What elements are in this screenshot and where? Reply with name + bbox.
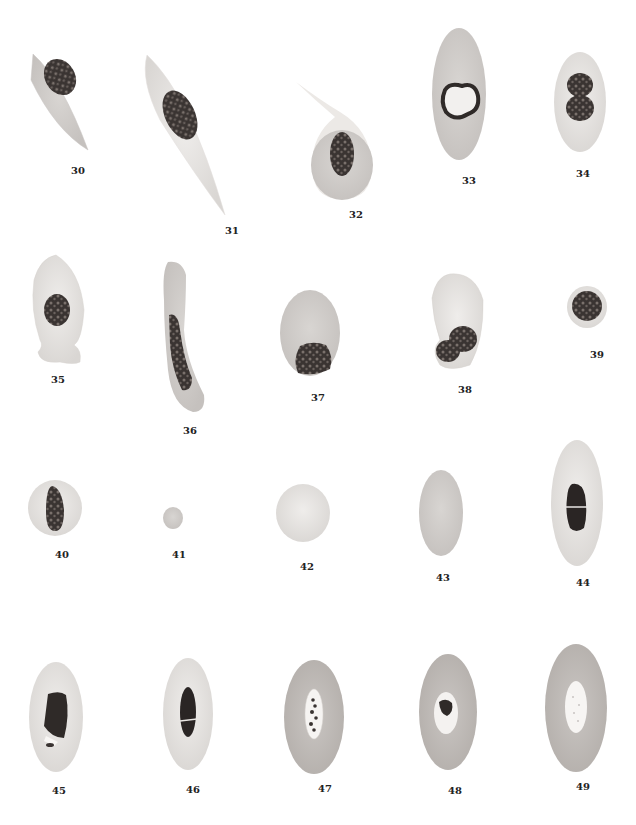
figure-36 [164,262,205,412]
illustration-plate: 30 31 32 33 34 35 36 37 38 39 40 41 42 4… [0,0,636,825]
figure-47 [284,660,344,774]
figure-31 [145,55,225,215]
figure-39 [567,286,607,328]
figure-label-42: 42 [300,561,314,572]
figure-32 [296,82,373,200]
figure-49 [545,644,607,772]
figure-38 [432,274,483,369]
figure-45 [29,662,83,772]
plate-drawing [0,0,636,825]
figure-34 [554,52,606,152]
figure-37 [280,290,340,376]
figure-label-43: 43 [436,572,450,583]
figure-label-45: 45 [52,785,66,796]
figure-46 [163,658,213,770]
figure-label-32: 32 [349,209,363,220]
figure-30 [31,53,88,150]
figure-label-31: 31 [225,225,239,236]
figure-42 [276,484,330,542]
figure-label-40: 40 [55,549,69,560]
figure-label-34: 34 [576,168,590,179]
figure-label-41: 41 [172,549,186,560]
figure-44 [551,440,603,566]
figure-40 [28,480,82,536]
figure-43 [419,470,463,556]
figure-label-48: 48 [448,785,462,796]
figure-label-44: 44 [576,577,590,588]
figure-label-38: 38 [458,384,472,395]
figure-33 [432,28,486,160]
figure-35 [33,255,84,364]
figure-label-30: 30 [71,165,85,176]
figure-label-46: 46 [186,784,200,795]
figure-label-39: 39 [590,349,604,360]
figure-label-35: 35 [51,374,65,385]
figure-41 [163,507,183,529]
figure-label-36: 36 [183,425,197,436]
figure-48 [419,654,477,770]
figure-label-49: 49 [576,781,590,792]
figure-label-47: 47 [318,783,332,794]
figure-label-37: 37 [311,392,325,403]
figure-label-33: 33 [462,175,476,186]
